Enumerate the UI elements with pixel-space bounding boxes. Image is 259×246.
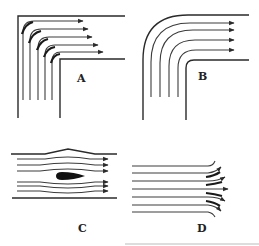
flow-streamline-diagram: A B C <box>0 0 259 246</box>
panel-b: B <box>143 15 249 120</box>
panel-c-teardrop-body <box>56 172 85 180</box>
panel-b-label: B <box>198 70 207 83</box>
panel-a-vortex-arcs <box>22 22 60 63</box>
panel-d-label: D <box>197 222 207 235</box>
panel-a-inner-wall <box>60 59 125 118</box>
panel-c-label: C <box>78 222 87 235</box>
panel-a: A <box>18 16 125 118</box>
panel-b-outer-wall <box>143 15 249 120</box>
panel-c-top-wall <box>11 149 117 154</box>
panel-b-inner-wall <box>186 60 249 120</box>
panel-c: C <box>11 149 117 235</box>
panel-d-streamlines <box>132 161 228 217</box>
panel-a-label: A <box>76 72 86 85</box>
panel-d: D <box>132 161 228 235</box>
